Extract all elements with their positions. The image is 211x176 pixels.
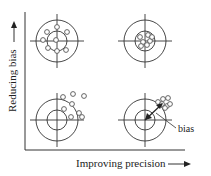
shot-marker [150, 35, 155, 40]
shot-marker [82, 94, 87, 99]
shot-marker [46, 46, 51, 51]
shot-marker [64, 48, 69, 53]
shot-marker [163, 106, 168, 111]
shot-marker [80, 115, 85, 120]
targets-group [30, 14, 172, 147]
shot-marker [45, 30, 50, 35]
shot-marker [70, 102, 75, 107]
bias-annotation: bias [145, 103, 194, 134]
shot-marker [138, 35, 143, 40]
bias-precision-diagram: Reducing bias Improving precision bias [0, 0, 211, 176]
target-top-left [30, 14, 84, 68]
shot-marker [71, 92, 76, 97]
y-axis-label-group: Reducing bias [6, 21, 18, 112]
bias-leader-line [156, 113, 176, 128]
shot-marker [61, 95, 66, 100]
target-top-right [118, 14, 172, 68]
right-arrow-icon [184, 161, 191, 167]
up-arrow-icon [11, 21, 17, 28]
bias-label: bias [178, 123, 194, 134]
x-axis-label-group: Improving precision [76, 157, 191, 169]
shot-marker [65, 30, 70, 35]
shot-marker [168, 102, 173, 107]
x-axis-label: Improving precision [76, 157, 166, 169]
shot-marker [62, 107, 67, 112]
shot-marker [145, 43, 150, 48]
shot-marker [41, 38, 46, 43]
shot-marker [55, 49, 60, 54]
shot-marker [55, 25, 60, 30]
target-bottom-left [30, 92, 86, 147]
shot-marker [54, 38, 59, 43]
shot-marker [166, 96, 171, 101]
y-axis-label: Reducing bias [6, 49, 18, 112]
shot-marker [139, 44, 144, 49]
shot-marker [69, 115, 74, 120]
shot-marker [161, 97, 166, 102]
